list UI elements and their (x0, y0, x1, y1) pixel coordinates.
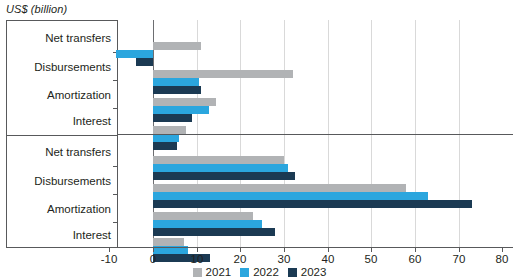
legend-swatch-2021-icon (193, 268, 202, 277)
bar-2023-private-interest (153, 142, 177, 150)
group-separator (118, 134, 513, 135)
bar-2023-private-disbursements (153, 86, 201, 94)
bar-2022-private-net-transfers (116, 50, 153, 58)
x-tick (328, 248, 329, 252)
bar-2023-official-net-transfers (153, 172, 295, 180)
category-tick (113, 80, 118, 81)
group-divider-rule (7, 135, 117, 136)
bar-2023-official-disbursements (153, 200, 472, 208)
x-tick-label-10: 10 (191, 253, 204, 265)
x-tick (415, 248, 416, 252)
category-label-official-net-transfers: Net transfers (45, 146, 111, 158)
bar-2023-private-net-transfers (136, 58, 153, 66)
x-tick-label-40: 40 (322, 253, 335, 265)
category-label-private-interest: Interest (73, 115, 111, 127)
plot-frame: PPG private PPG official Net transfers D… (6, 20, 513, 248)
x-tick (240, 248, 241, 252)
x-tick (459, 248, 460, 252)
bar-2021-private-interest (153, 126, 186, 134)
bar-2023-private-amortization (153, 114, 192, 122)
category-label-private-disbursements: Disbursements (34, 61, 111, 73)
legend-label-2021: 2021 (206, 266, 232, 278)
category-label-official-interest: Interest (73, 229, 111, 241)
category-tick (113, 222, 118, 223)
x-tick-label-70: 70 (453, 253, 466, 265)
x-tick (197, 248, 198, 252)
category-label-official-amortization: Amortization (47, 203, 111, 215)
x-tick (371, 248, 372, 252)
bar-2021-private-net-transfers (153, 42, 201, 50)
legend: 2021 2022 2023 (0, 266, 519, 278)
category-label-box: PPG private PPG official Net transfers D… (6, 20, 118, 248)
legend-label-2022: 2022 (253, 266, 279, 278)
chart-root: US$ (billion) PPG private PPG official N… (0, 0, 519, 280)
legend-item-2021: 2021 (193, 266, 232, 278)
bar-2023-official-amortization (153, 228, 275, 236)
x-tick (284, 248, 285, 252)
bar-2021-official-amortization (153, 212, 253, 220)
bar-2021-official-interest (153, 238, 184, 246)
x-tick-label-neg10: -10 (101, 253, 118, 265)
category-label-private-amortization: Amortization (47, 89, 111, 101)
category-tick (113, 194, 118, 195)
bar-2022-official-amortization (153, 220, 262, 228)
category-label-official-disbursements: Disbursements (34, 175, 111, 187)
x-tick-label-80: 80 (496, 253, 509, 265)
x-axis: -10 0 10 20 30 40 50 60 70 80 (118, 248, 513, 268)
bar-2022-private-disbursements (153, 78, 199, 86)
category-tick (113, 108, 118, 109)
category-tick (113, 166, 118, 167)
x-tick-label-50: 50 (365, 253, 378, 265)
bar-2022-private-interest (153, 134, 179, 142)
bar-2022-official-disbursements (153, 192, 428, 200)
plot-area (118, 20, 513, 248)
bar-2021-official-net-transfers (153, 156, 284, 164)
category-label-private-net-transfers: Net transfers (45, 32, 111, 44)
x-tick-label-20: 20 (234, 253, 247, 265)
x-tick (502, 248, 503, 252)
x-tick-label-30: 30 (278, 253, 291, 265)
x-tick (153, 248, 154, 252)
legend-item-2023: 2023 (288, 266, 327, 278)
bar-2021-official-disbursements (153, 184, 406, 192)
bar-2022-official-net-transfers (153, 164, 288, 172)
bar-2022-private-amortization (153, 106, 209, 114)
x-tick-label-0: 0 (150, 253, 156, 265)
bar-2021-private-disbursements (153, 70, 293, 78)
legend-swatch-2022-icon (240, 268, 249, 277)
legend-label-2023: 2023 (301, 266, 327, 278)
legend-swatch-2023-icon (288, 268, 297, 277)
x-tick (109, 248, 110, 252)
x-tick-label-60: 60 (409, 253, 422, 265)
legend-item-2022: 2022 (240, 266, 279, 278)
bar-2021-private-amortization (153, 98, 216, 106)
units-label: US$ (billion) (6, 3, 67, 15)
